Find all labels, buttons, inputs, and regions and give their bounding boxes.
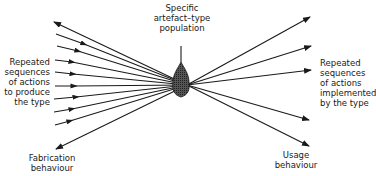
usage-arrow-5 xyxy=(187,85,309,146)
fabrication-line-8 xyxy=(54,85,187,112)
label-usage-behaviour: Usage behaviour xyxy=(266,150,326,170)
artefact-population-node xyxy=(173,62,189,97)
fabrication-line-9 xyxy=(55,85,187,125)
fabrication-line-2 xyxy=(56,34,187,85)
usage-arrows xyxy=(187,17,311,146)
fabrication-line-6 xyxy=(55,85,187,86)
label-fabrication-behaviour: Fabrication behaviour xyxy=(22,153,82,173)
fabrication-line-4 xyxy=(55,60,187,85)
usage-arrow-3 xyxy=(187,70,311,85)
fabrication-line-10 xyxy=(56,85,187,149)
label-usage-sequences: Repeated sequences of actions implemente… xyxy=(320,58,376,108)
fabrication-lines xyxy=(54,22,187,149)
label-artefact-type-population: Specific artefact–type population xyxy=(146,3,218,33)
label-fabrication-sequences: Repeated sequences of actions to produce… xyxy=(0,57,50,107)
usage-arrow-2 xyxy=(187,46,311,85)
usage-arrow-4 xyxy=(187,85,309,120)
fabrication-line-7 xyxy=(54,85,187,99)
